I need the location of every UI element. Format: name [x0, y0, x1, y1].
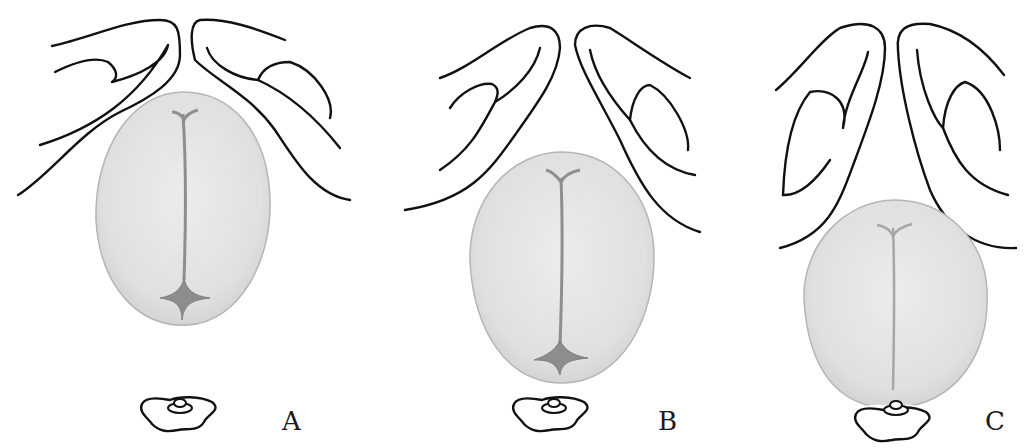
pelvic-fold-right-inner-b-a — [258, 80, 340, 148]
sagittal-suture-c — [893, 228, 894, 390]
panel-b — [405, 26, 700, 431]
pelvic-fold-left-inner-c — [783, 52, 868, 195]
anatomical-figure: A B C — [0, 0, 1026, 448]
sacrum-icon-b — [513, 397, 587, 431]
panel-a — [18, 20, 350, 431]
panel-c — [776, 24, 1016, 442]
pelvic-fold-right-inner-c — [917, 50, 1000, 150]
panel-label-b: B — [658, 406, 677, 436]
pelvic-fold-left-inner2-b — [440, 102, 495, 170]
sacrum-icon-a — [141, 397, 215, 431]
pelvic-fold-left-inner2-c — [783, 160, 830, 195]
pelvic-fold-left-inner-b — [450, 48, 540, 108]
panel-label-a: A — [282, 406, 301, 436]
panel-label-c: C — [985, 406, 1005, 436]
figure-canvas — [0, 0, 1026, 448]
